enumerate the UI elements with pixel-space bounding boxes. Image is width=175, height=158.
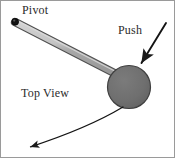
diagram-canvas xyxy=(0,0,175,158)
pivot-dot-highlight xyxy=(13,20,15,22)
pivot-dot xyxy=(12,18,19,25)
top-view-label: Top View xyxy=(21,86,69,101)
pivot-label: Pivot xyxy=(22,3,48,18)
push-label: Push xyxy=(118,23,142,38)
disk-shape xyxy=(108,66,151,109)
physics-diagram-top-view: Pivot Push Top View xyxy=(0,0,175,158)
